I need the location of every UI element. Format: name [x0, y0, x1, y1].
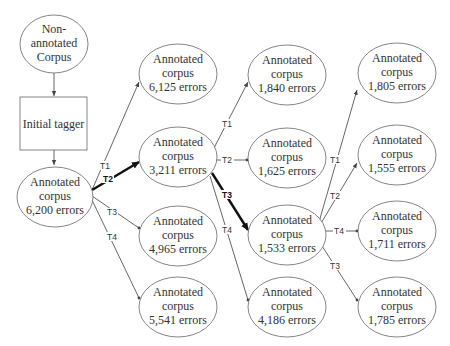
- node-label: corpus: [381, 223, 413, 237]
- error-reduction-tree-diagram: T1 T2 T3 T4 T1 T2 T3 T4 T1 T2 T4 T3 Non-…: [0, 0, 450, 346]
- node-label: corpus: [271, 150, 303, 164]
- node-l2-t2-1625: Annotated corpus 1,625 errors: [248, 128, 326, 188]
- node-l3-t2-1555: Annotated corpus 1,555 errors: [358, 125, 436, 185]
- edge-label-l2t3-t2: T2: [330, 191, 340, 201]
- edge-label-l1t2-t3: T3: [222, 190, 232, 200]
- node-label: Annotated: [262, 136, 312, 150]
- node-l2-t3-1533: Annotated corpus 1,533 errors: [248, 205, 326, 265]
- node-label: 1,533 errors: [258, 241, 316, 255]
- node-label: 1,805 errors: [368, 79, 426, 93]
- edge-label-l2t3-t4: T4: [334, 226, 344, 236]
- node-label: Annotated: [153, 285, 203, 299]
- node-label: Annotated: [30, 175, 80, 189]
- node-label: 1,625 errors: [258, 164, 316, 178]
- edge-label-l1t2-t1: T1: [222, 119, 232, 129]
- node-label: corpus: [271, 67, 303, 81]
- node-initial-tagger: Initial tagger: [20, 97, 87, 150]
- node-non-annotated-corpus: Non- annotated Corpus: [20, 15, 88, 73]
- edge-label-l2t3-t3: T3: [330, 261, 340, 271]
- node-label: Corpus: [37, 50, 72, 64]
- node-label: Annotated: [372, 285, 422, 299]
- node-label: Annotated: [153, 52, 203, 66]
- node-label: corpus: [162, 299, 194, 313]
- node-label: corpus: [271, 227, 303, 241]
- node-l3-t4-1711: Annotated corpus 1,711 errors: [358, 201, 436, 261]
- node-label: corpus: [271, 299, 303, 313]
- node-label: Annotated: [262, 53, 312, 67]
- node-label: 1,840 errors: [258, 81, 316, 95]
- node-label: corpus: [381, 65, 413, 79]
- node-l2-t4-4186: Annotated corpus 4,186 errors: [248, 277, 326, 337]
- node-label: Annotated: [153, 135, 203, 149]
- node-l1-t1-6125: Annotated corpus 6,125 errors: [139, 44, 217, 104]
- edge-l1t2-t1: [214, 82, 248, 148]
- node-label: corpus: [162, 149, 194, 163]
- node-label: 5,541 errors: [149, 313, 207, 327]
- node-label: Annotated: [372, 133, 422, 147]
- node-label: 1,555 errors: [368, 161, 426, 175]
- edge-label-l1t2-t4: T4: [222, 225, 232, 235]
- node-label: corpus: [162, 228, 194, 242]
- edge-root-t1: [92, 82, 139, 190]
- edge-label-l2t3-t1: T1: [330, 155, 340, 165]
- edge-label-root-t4: T4: [107, 232, 117, 242]
- edge-label-l1t2-t2: T2: [222, 155, 232, 165]
- node-label: annotated: [31, 36, 78, 50]
- node-label: 1,711 errors: [368, 237, 426, 251]
- node-label: 3,211 errors: [149, 163, 207, 177]
- edge-label-root-t1: T1: [100, 161, 110, 171]
- node-l2-t1-1840: Annotated corpus 1,840 errors: [248, 45, 326, 105]
- node-label: Annotated: [262, 285, 312, 299]
- node-label: Initial tagger: [23, 117, 85, 131]
- node-label: corpus: [381, 147, 413, 161]
- node-l3-t1-1805: Annotated corpus 1,805 errors: [358, 43, 436, 103]
- node-label: Annotated: [153, 214, 203, 228]
- node-label: corpus: [39, 189, 71, 203]
- edge-label-root-t2: T2: [103, 174, 113, 184]
- node-label: corpus: [381, 299, 413, 313]
- edges: [54, 73, 357, 300]
- node-l1-t3-4965: Annotated corpus 4,965 errors: [139, 206, 217, 266]
- node-label: 4,965 errors: [149, 242, 207, 256]
- node-root-6200: Annotated corpus 6,200 errors: [17, 167, 93, 227]
- node-label: 6,125 errors: [149, 80, 207, 94]
- node-label: Annotated: [372, 51, 422, 65]
- node-l1-t4-5541: Annotated corpus 5,541 errors: [139, 277, 217, 337]
- node-label: Non-: [42, 22, 67, 36]
- node-label: Annotated: [262, 213, 312, 227]
- node-label: 4,186 errors: [258, 313, 316, 327]
- node-label: Annotated: [372, 209, 422, 223]
- node-l3-t3-1785: Annotated corpus 1,785 errors: [358, 277, 436, 337]
- node-label: corpus: [162, 66, 194, 80]
- node-label: 6,200 errors: [26, 203, 84, 217]
- node-label: 1,785 errors: [368, 313, 426, 327]
- node-l1-t2-3211: Annotated corpus 3,211 errors: [139, 127, 217, 187]
- edge-label-root-t3: T3: [107, 207, 117, 217]
- edge-l2t3-t3: [322, 246, 357, 300]
